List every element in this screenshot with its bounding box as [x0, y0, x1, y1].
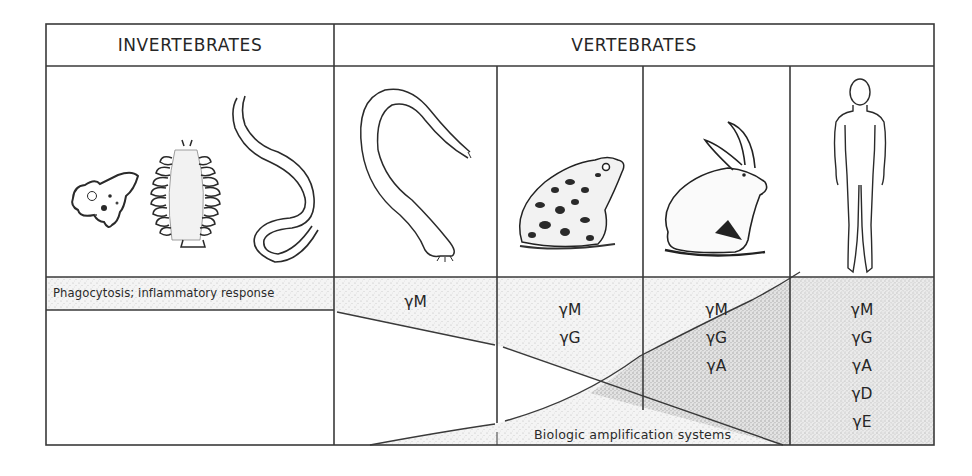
amoeba-illustration — [72, 173, 138, 227]
ig-class: γG — [851, 324, 872, 352]
ig-class: γA — [852, 352, 872, 380]
ig-class: γG — [706, 324, 727, 352]
immunoglobulin-list-human: γM γG γA γD γE — [790, 296, 934, 436]
ig-class: γA — [707, 352, 727, 380]
ig-class: γM — [404, 288, 427, 316]
immune-phylogeny-figure: INVERTEBRATES VERTEBRATES Phagocytosis; … — [0, 0, 972, 476]
amplification-systems-label: Biologic amplification systems — [534, 427, 731, 442]
ig-class: γD — [851, 380, 872, 408]
ig-class: γG — [559, 324, 580, 352]
earthworm-illustration — [233, 96, 318, 262]
ig-class: γE — [853, 408, 872, 436]
human-illustration — [835, 79, 886, 272]
immunoglobulin-list-rabbit: γM γG γA — [643, 296, 790, 380]
invertebrate-response-label: Phagocytosis; inflammatory response — [47, 277, 333, 309]
frog-illustration — [520, 158, 624, 249]
immunoglobulin-list-frog: γM γG — [497, 296, 643, 352]
rabbit-illustration — [665, 122, 767, 256]
ig-class: γM — [851, 296, 874, 324]
polychaete-worm-illustration — [151, 140, 220, 247]
immunoglobulin-list-lamprey: γM — [334, 288, 497, 316]
header-vertebrates: VERTEBRATES — [334, 24, 934, 66]
ig-class: γM — [705, 296, 728, 324]
lamprey-illustration — [361, 89, 471, 262]
ig-class: γM — [559, 296, 582, 324]
header-invertebrates: INVERTEBRATES — [46, 24, 334, 66]
